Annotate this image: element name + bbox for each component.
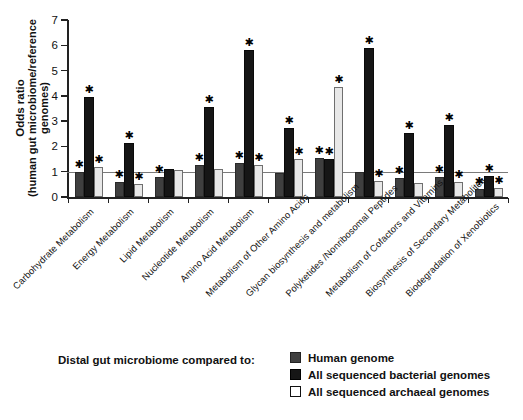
significance-star: ✱ [442,114,456,122]
y-axis-tick [61,70,68,71]
y-axis-tick [61,95,68,96]
legend-swatch-icon [290,369,301,380]
legend-title: Distal gut microbiome compared to: [58,354,255,366]
legend-item-label: All sequenced archaeal genomes [308,386,490,398]
y-axis-title: Odds ratio (human gut microbiome/referen… [14,19,36,197]
y-axis-tick-label: 3 [42,115,58,127]
significance-star: ✱ [122,132,136,140]
bar [214,169,223,197]
bar [134,184,143,197]
significance-star: ✱ [492,177,506,185]
x-axis-tick [508,198,509,203]
bar [84,97,93,197]
bar [494,188,503,197]
bar [164,169,173,197]
x-axis-tick [108,198,109,203]
significance-star: ✱ [252,154,266,162]
significance-star: ✱ [482,165,496,173]
bar [115,182,124,197]
x-axis-tick [188,198,189,203]
legend-swatch-icon [290,386,301,397]
x-axis-tick [268,198,269,203]
y-axis-tick-label: 5 [42,65,58,77]
legend-item: All sequenced bacterial genomes [290,369,490,386]
bar [284,128,293,198]
x-axis-tick [68,198,69,203]
bar [315,158,324,197]
bar [254,165,263,197]
x-axis-tick [228,198,229,203]
legend-item-label: Human genome [308,352,394,364]
y-axis-tick-label: 1 [42,166,58,178]
bar [244,50,253,197]
bar [334,87,343,197]
significance-star: ✱ [132,173,146,181]
significance-star: ✱ [402,122,416,130]
bar [324,159,333,197]
x-axis-line [67,197,508,199]
significance-star: ✱ [292,148,306,156]
y-axis-tick [61,146,68,147]
bar [75,172,84,197]
bar [124,143,133,197]
y-axis-title-line1: Odds ratio [14,19,26,197]
y-axis-tick-label: 6 [42,39,58,51]
y-axis-tick [61,120,68,121]
significance-star: ✱ [82,86,96,94]
bar [174,170,183,197]
bar [94,167,103,197]
legend-item-label: All sequenced bacterial genomes [308,369,490,381]
bar [235,163,244,197]
bar [275,173,284,197]
bar [444,125,453,197]
significance-star: ✱ [362,37,376,45]
significance-star: ✱ [242,39,256,47]
legend-swatch-icon [290,352,301,363]
significance-star: ✱ [372,170,386,178]
bar [404,133,413,198]
legend-item: All sequenced archaeal genomes [290,386,490,403]
significance-star: ✱ [332,76,346,84]
significance-star: ✱ [452,171,466,179]
chart-figure: Odds ratio (human gut microbiome/referen… [0,0,523,420]
significance-star: ✱ [92,156,106,164]
y-axis-tick [61,45,68,46]
scan-artifact [44,0,274,5]
y-axis-tick [61,19,68,20]
significance-star: ✱ [202,96,216,104]
bar [195,165,204,197]
y-axis-tick-label: 2 [42,140,58,152]
y-axis-tick-label: 7 [42,14,58,26]
legend-item: Human genome [290,352,394,369]
y-axis-tick-label: 0 [42,191,58,203]
bar [155,177,164,197]
y-axis-tick-label: 4 [42,90,58,102]
bar [204,107,213,197]
x-axis-tick [148,198,149,203]
significance-star: ✱ [282,117,296,125]
